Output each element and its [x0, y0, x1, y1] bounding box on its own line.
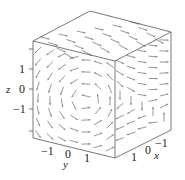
y-tick-neg1: −1 [41, 144, 54, 158]
z-tick-1: 1 [19, 62, 25, 76]
x-axis-label: x [153, 149, 159, 161]
x-tick-neg1: −1 [155, 136, 168, 150]
x-tick-0: 0 [145, 143, 151, 157]
x-tick-1: 1 [131, 150, 137, 164]
z-axis-ticks [29, 49, 33, 131]
y-tick-1: 1 [84, 151, 90, 165]
z-axis-label: z [5, 83, 11, 95]
z-tick-neg1: −1 [13, 102, 26, 116]
y-axis-label: y [62, 158, 68, 170]
vector-arrows [35, 22, 169, 151]
vector-field-plot: 1 0 −1 z −1 0 1 y 1 0 −1 x [0, 0, 185, 180]
bounding-box [33, 11, 171, 158]
z-tick-0: 0 [19, 82, 25, 96]
